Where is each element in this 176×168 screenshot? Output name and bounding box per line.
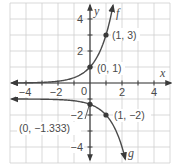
x-tick-label: 0 [81,85,87,97]
x-tick-label: −4 [19,86,32,98]
point-label-f-1-3: (1, 3) [112,29,137,41]
point-g-0 [87,102,92,107]
point-label-g-0: (0, −1.333) [19,122,70,134]
y-axis-label: y [93,4,100,18]
y-tick-label: −2 [70,109,83,121]
point-f-1-3 [103,32,108,37]
x-tick-label: 4 [151,86,157,98]
leader-line [85,106,89,119]
point-g-1 [103,112,108,117]
x-tick-label: 2 [119,86,125,98]
curve-f-label: f [116,6,121,20]
curve-g-label: g [128,146,134,160]
y-tick-label: 2 [77,45,83,57]
point-f-0-1 [87,64,92,69]
point-label-f-0-1: (0, 1) [97,62,122,74]
x-axis-label: x [159,66,166,80]
x-tick-label: −2 [50,86,63,98]
point-label-g-1: (1, −2) [114,109,145,121]
y-tick-label: −4 [70,141,83,153]
y-tick-label: 4 [77,13,83,25]
exponential-graph: −4 −2 0 2 4 4 2 −2 −4 x y f g (1, 3) (0,… [0,0,176,168]
